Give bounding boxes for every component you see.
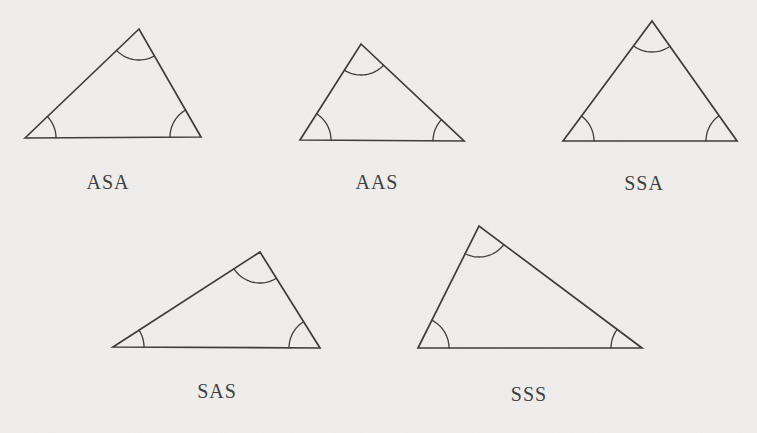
paper-texture — [0, 0, 757, 433]
triangle-label-sas: SAS — [197, 380, 237, 402]
triangle-label-asa: ASA — [86, 171, 129, 193]
triangle-label-ssa: SSA — [624, 172, 664, 194]
triangles-canvas: ASAAASSSASASSSS — [0, 0, 757, 433]
triangle-label-sss: SSS — [511, 383, 547, 405]
triangle-label-aas: AAS — [355, 171, 398, 193]
triangle-cases-figure: ASAAASSSASASSSS — [0, 0, 757, 433]
